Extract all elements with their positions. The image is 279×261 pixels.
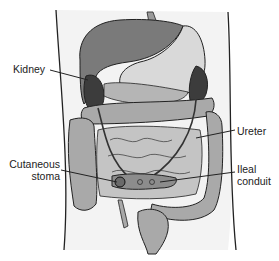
label-kidney: Kidney: [13, 63, 45, 75]
label-cutaneous-stoma-line2: stoma: [2, 170, 60, 182]
label-ileal-conduit: Ileal conduit: [237, 163, 271, 187]
label-cutaneous-stoma: Cutaneous stoma: [2, 158, 60, 182]
ascending-colon: [68, 118, 96, 210]
label-ileal-conduit-line1: Ileal: [237, 163, 271, 175]
label-cutaneous-stoma-line1: Cutaneous: [2, 158, 60, 170]
label-ureter: Ureter: [237, 125, 266, 137]
label-ileal-conduit-line2: conduit: [237, 175, 271, 187]
